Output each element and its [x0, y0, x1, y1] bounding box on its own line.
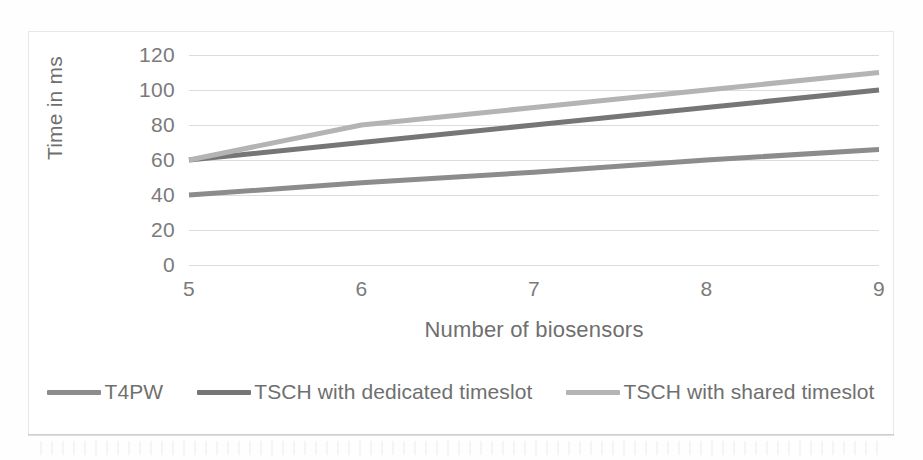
x-axis-tick-label: 6 — [356, 277, 368, 301]
legend-color-swatch — [566, 390, 620, 395]
x-axis-title: Number of biosensors — [189, 317, 879, 343]
x-axis-tick-label: 8 — [701, 277, 713, 301]
scanned-page: Time in ms 020406080100120 56789 Number … — [0, 0, 923, 460]
legend-label: TSCH with shared timeslot — [623, 380, 874, 404]
y-axis-title: Time in ms — [43, 56, 67, 160]
chart-legend: T4PWTSCH with dedicated timeslotTSCH wit… — [29, 380, 893, 404]
x-axis-tick-label: 9 — [873, 277, 885, 301]
y-axis-tick-label: 40 — [151, 183, 175, 207]
plot-area — [189, 55, 879, 265]
series-line — [189, 90, 879, 160]
legend-item[interactable]: TSCH with dedicated timeslot — [197, 380, 532, 404]
y-axis-tick-label: 0 — [163, 253, 175, 277]
x-axis-tick-label: 5 — [183, 277, 195, 301]
y-axis-tick-label: 120 — [139, 43, 175, 67]
x-axis-tick-labels: 56789 — [189, 277, 879, 305]
series-lines — [189, 55, 879, 265]
y-axis-tick-labels: 020406080100120 — [101, 55, 183, 265]
legend-item[interactable]: T4PW — [47, 380, 163, 404]
legend-label: TSCH with dedicated timeslot — [254, 380, 532, 404]
legend-item[interactable]: TSCH with shared timeslot — [566, 380, 874, 404]
y-axis-tick-label: 100 — [139, 78, 175, 102]
series-line — [189, 150, 879, 196]
y-axis-tick-label: 80 — [151, 113, 175, 137]
chart-frame: Time in ms 020406080100120 56789 Number … — [28, 31, 894, 435]
scan-edge-artifact — [28, 434, 894, 436]
x-axis-tick-label: 7 — [528, 277, 540, 301]
series-line — [189, 73, 879, 161]
scan-noise-artifact — [40, 441, 880, 455]
legend-color-swatch — [47, 390, 101, 395]
legend-label: T4PW — [104, 380, 163, 404]
y-axis-tick-label: 60 — [151, 148, 175, 172]
y-axis-tick-label: 20 — [151, 218, 175, 242]
legend-color-swatch — [197, 390, 251, 395]
gridline — [189, 265, 879, 266]
